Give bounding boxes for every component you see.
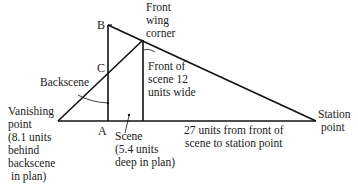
backscene-leader xyxy=(78,95,108,103)
front-of-scene-leader xyxy=(144,49,155,52)
point-b-label: B xyxy=(97,19,105,32)
backscene-leader-dot xyxy=(107,102,109,104)
sightline-b-to-station xyxy=(108,25,316,121)
scene-leader-dot xyxy=(128,114,130,116)
point-c-label: C xyxy=(97,62,105,75)
backscene-label: Backscene xyxy=(40,76,89,89)
point-a-label: A xyxy=(98,125,107,138)
